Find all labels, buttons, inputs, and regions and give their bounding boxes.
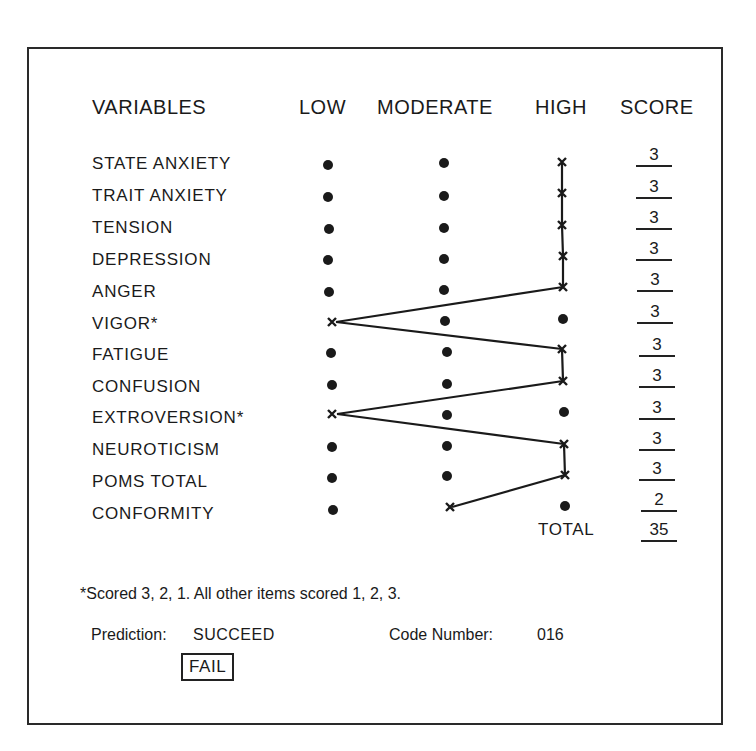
score-value: 3 [639, 460, 675, 481]
score-value: 3 [636, 209, 672, 230]
variable-label: CONFORMITY [92, 504, 214, 524]
variable-label: CONFUSION [92, 377, 201, 397]
header-variables: VARIABLES [92, 96, 206, 119]
code-number-value: 016 [537, 626, 564, 644]
variable-label: EXTROVERSION* [92, 408, 244, 428]
variable-label: ANGER [92, 282, 156, 302]
score-value: 3 [636, 240, 672, 261]
score-value: 3 [637, 303, 673, 324]
variable-label: TENSION [92, 218, 173, 238]
score-value: 3 [639, 399, 675, 420]
prediction-option-succeed[interactable]: SUCCEED [193, 626, 275, 644]
variable-label: NEUROTICISM [92, 440, 220, 460]
score-value: 3 [636, 146, 672, 167]
score-value: 3 [637, 271, 673, 292]
prediction-label: Prediction: [91, 626, 167, 644]
scoring-footnote: *Scored 3, 2, 1. All other items scored … [80, 585, 401, 603]
variable-label: VIGOR* [92, 314, 158, 334]
variable-label: STATE ANXIETY [92, 154, 231, 174]
header-score: SCORE [620, 96, 694, 119]
score-value: 3 [639, 430, 675, 451]
variable-label: TRAIT ANXIETY [92, 186, 228, 206]
header-high: HIGH [535, 96, 587, 119]
code-number-label: Code Number: [389, 626, 493, 644]
variable-label: POMS TOTAL [92, 472, 208, 492]
score-value: 3 [639, 336, 675, 357]
score-value: 3 [636, 178, 672, 199]
variable-label: FATIGUE [92, 345, 169, 365]
score-value: 3 [639, 367, 675, 388]
header-moderate: MODERATE [377, 96, 493, 119]
total-score: 35 [641, 521, 677, 542]
total-label: TOTAL [538, 520, 594, 540]
score-value: 2 [641, 491, 677, 512]
variable-label: DEPRESSION [92, 250, 211, 270]
prediction-option-fail-selected[interactable]: FAIL [181, 653, 234, 681]
header-low: LOW [299, 96, 346, 119]
